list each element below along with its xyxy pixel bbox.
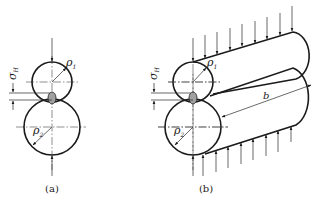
top-distributed-load (193, 6, 292, 61)
rho2-label: ρ2 (173, 124, 184, 138)
length-b-label: b (263, 90, 269, 101)
rho2-label: ρ2 (32, 124, 43, 138)
panel-b: b σH ρ1 ρ2 (b) (147, 6, 311, 194)
lower-cylinder-body (205, 68, 308, 154)
sigma-h-label: σH (6, 66, 19, 80)
rho1-radius-arrow-icon (52, 68, 66, 82)
caption-b: (b) (199, 183, 213, 194)
panel-a: σH ρ1 ρ2 (a) (6, 38, 86, 194)
rho1-label: ρ1 (206, 56, 217, 70)
contact-zone (189, 92, 197, 104)
contact-zone (48, 92, 56, 104)
sigma-h-label: σH (147, 66, 160, 80)
caption-a: (a) (45, 183, 59, 194)
rho1-label: ρ1 (65, 56, 76, 70)
rho1-radius-arrow-icon (193, 68, 206, 82)
contact-stress-diagram: σH ρ1 ρ2 (a) (0, 0, 328, 202)
